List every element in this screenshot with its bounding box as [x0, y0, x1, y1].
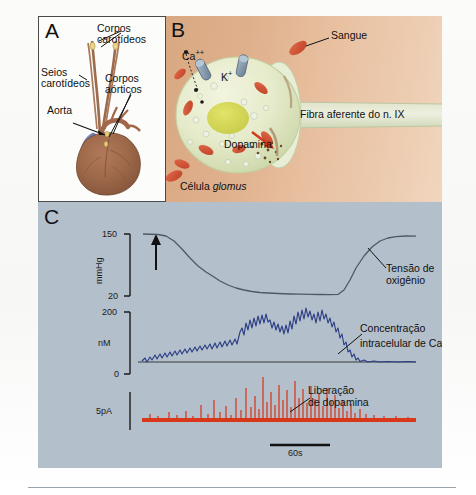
- figure-top-row: A: [38, 16, 442, 202]
- calcium-axis-units: nM: [98, 338, 111, 348]
- label-potassium-ion: K+: [221, 68, 232, 83]
- annotation-calcium: Concentração intracelular de Ca++: [360, 322, 442, 349]
- panel-a: A: [38, 16, 166, 202]
- page-divider-rule: [28, 487, 456, 488]
- label-aorta: Aorta: [47, 105, 72, 117]
- oxygen-axis-max: 150: [102, 229, 117, 239]
- panel-b: B: [166, 16, 442, 202]
- label-fibra-aferente: Fibra aferente do n. IX: [300, 109, 404, 121]
- dopamine-axis-units: 5pA: [96, 406, 112, 416]
- label-dopamina: Dopamina: [224, 139, 272, 151]
- calcium-axis-max: 200: [102, 307, 117, 317]
- calcium-axis-min: 0: [114, 369, 119, 379]
- panel-c-letter: C: [44, 205, 59, 229]
- label-corpos-carotideos: Corpos carotídeos: [97, 23, 146, 45]
- oxygen-axis-min: 20: [108, 291, 118, 301]
- label-calcium-ion: Ca++: [182, 47, 204, 62]
- oxygen-axis-units: mmHg: [94, 258, 104, 285]
- annotation-dopamine: Liberação de dopamina: [308, 384, 369, 408]
- page-background: A: [0, 0, 476, 495]
- panel-a-letter: A: [45, 19, 59, 43]
- label-celula-glomus: Célula glomus: [180, 181, 247, 193]
- label-seios-carotideos: Seios carotídeos: [41, 67, 90, 89]
- label-corpos-aorticos: Corpos aórticos: [105, 73, 142, 95]
- time-scale-bar-label: 60s: [288, 448, 303, 458]
- figure: A: [38, 8, 442, 476]
- annotation-oxygen: Tensão de oxigênio: [386, 262, 434, 286]
- panel-b-letter: B: [171, 18, 185, 42]
- label-sangue: Sangue: [331, 30, 367, 42]
- panel-c: C: [38, 202, 442, 468]
